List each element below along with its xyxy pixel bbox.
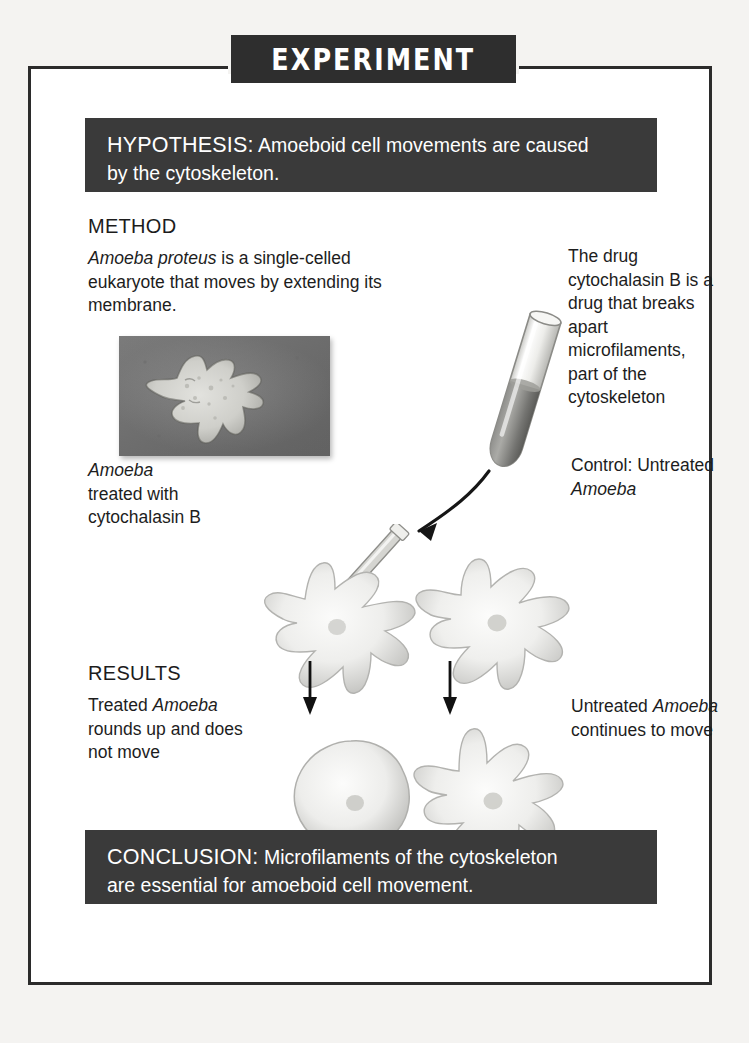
untreated-result-label: Untreated Amoeba continues to move (571, 695, 731, 742)
conclusion-keyword: CONCLUSION: (107, 845, 259, 869)
hypothesis-text-1: Amoeboid cell movements are caused (254, 134, 589, 156)
conclusion-text-1: Microfilaments of the cytoskeleton (259, 846, 558, 868)
hypothesis-line-1: HYPOTHESIS: Amoeboid cell movements are … (107, 131, 637, 159)
conclusion-box: CONCLUSION: Microfilaments of the cytosk… (85, 830, 657, 904)
hypothesis-line-2: by the cytoskeleton. (107, 159, 637, 187)
conclusion-line-2: are essential for amoeboid cell movement… (107, 871, 637, 899)
treated-result-label: Treated Amoeba rounds up and does not mo… (88, 694, 268, 765)
treated-amoeba-label: Amoebatreated with cytochalasin B (88, 459, 263, 530)
treated-result-pre: Treated (88, 695, 153, 715)
control-label-species: Amoeba (571, 479, 636, 499)
untreated-result-pre: Untreated (571, 696, 653, 716)
untreated-result-rest: continues to move (571, 720, 713, 740)
treated-result-species: Amoeba (153, 695, 218, 715)
treated-label-species: Amoeba (88, 460, 153, 480)
figure-frame: HYPOTHESIS: Amoeboid cell movements are … (28, 66, 712, 985)
down-arrow-icon (440, 659, 460, 717)
amoeba-micrograph (119, 336, 330, 456)
hypothesis-keyword: HYPOTHESIS: (107, 133, 254, 157)
hypothesis-box: HYPOTHESIS: Amoeboid cell movements are … (85, 118, 657, 192)
test-tube-with-drug (463, 297, 583, 487)
results-heading: RESULTS (88, 662, 181, 685)
control-amoeba-label: Control: Untreated Amoeba (571, 454, 721, 501)
experiment-banner: EXPERIMENT (231, 35, 516, 83)
drug-description: The drug cytochalasin B is a drug that b… (568, 245, 718, 410)
treated-result-rest: rounds up and does not move (88, 719, 243, 763)
experiment-banner-label: EXPERIMENT (272, 41, 476, 77)
method-description: Amoeba proteus is a single-celled eukary… (88, 247, 418, 318)
control-label-pre: Control: Untreated (571, 455, 714, 475)
method-heading: METHOD (88, 215, 176, 238)
amoeba-control-illustration (405, 541, 595, 701)
untreated-result-species: Amoeba (653, 696, 718, 716)
down-arrow-icon (300, 659, 320, 717)
conclusion-line-1: CONCLUSION: Microfilaments of the cytosk… (107, 843, 637, 871)
experiment-figure-page: HYPOTHESIS: Amoeboid cell movements are … (0, 0, 749, 1043)
treated-label-rest: treated with cytochalasin B (88, 484, 201, 528)
method-species-name: Amoeba proteus (88, 248, 216, 268)
